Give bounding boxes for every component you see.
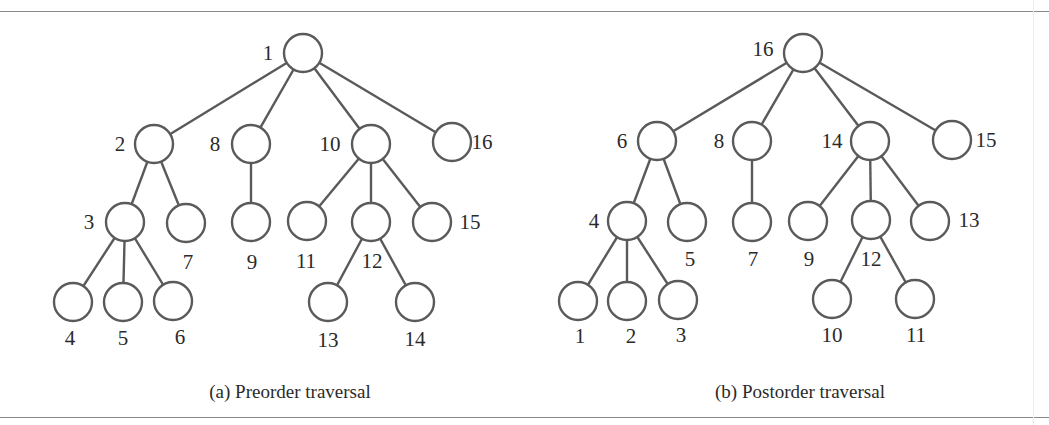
node-order-label: 10 [320,132,341,156]
node-order-label: 5 [685,247,696,271]
tree-node [911,202,949,240]
node-order-label: 5 [118,326,129,350]
node-order-label: 10 [822,323,843,347]
traversal-figure: 12810163791112154561314 (a) Preorder tra… [0,0,1049,425]
node-order-label: 16 [472,130,493,154]
node-order-label: 9 [804,247,815,271]
tree-node [352,125,390,163]
tree-node [733,203,771,241]
tree-node [284,34,322,72]
tree-node [852,201,890,239]
node-order-label: 15 [976,128,997,152]
tree-node [232,203,270,241]
tree-edge [154,53,303,144]
tree-node [106,203,144,241]
node-order-label: 7 [183,250,194,274]
tree-node [813,280,851,318]
node-order-label: 2 [115,132,126,156]
tree-node [396,283,434,321]
node-order-label: 6 [175,325,186,349]
postorder-edges [578,53,952,301]
preorder-edges [73,53,452,302]
tree-node [104,283,142,321]
postorder-caption: (b) Postorder traversal [715,381,885,403]
tree-node [784,34,822,72]
node-order-label: 11 [906,323,926,347]
tree-node [896,280,934,318]
preorder-caption: (a) Preorder traversal [209,381,370,403]
node-order-label: 8 [210,132,221,156]
node-order-label: 12 [861,247,882,271]
tree-node [733,122,771,160]
node-order-label: 3 [84,210,95,234]
tree-node [232,125,270,163]
node-order-label: 1 [263,41,274,65]
node-order-label: 15 [460,210,481,234]
node-order-label: 13 [959,208,980,232]
node-order-label: 11 [296,249,316,273]
node-order-label: 3 [676,323,687,347]
tree-node [167,204,205,242]
node-order-label: 12 [362,249,383,273]
tree-node [608,282,646,320]
tree-node [933,121,971,159]
tree-node [608,202,646,240]
tree-node [433,123,471,161]
tree-node [413,203,451,241]
node-order-label: 4 [65,326,76,350]
node-order-label: 6 [617,129,628,153]
tree-diagrams: 12810163791112154561314 (a) Preorder tra… [0,0,1049,425]
node-order-label: 7 [748,247,759,271]
tree-node [352,203,390,241]
tree-node [851,122,889,160]
node-order-label: 9 [247,250,258,274]
node-order-label: 13 [318,328,339,352]
preorder-tree-panel: 12810163791112154561314 (a) Preorder tra… [54,34,493,403]
tree-node [135,125,173,163]
tree-node [638,122,676,160]
node-order-label: 8 [714,129,725,153]
tree-node [559,282,597,320]
node-order-label: 14 [405,327,427,351]
node-order-label: 16 [753,37,774,61]
tree-node [154,282,192,320]
node-order-label: 2 [626,324,637,348]
tree-node [309,283,347,321]
node-order-label: 1 [575,324,586,348]
tree-node [54,283,92,321]
node-order-label: 4 [589,209,600,233]
node-order-label: 14 [822,129,844,153]
tree-node [789,202,827,240]
tree-edge [657,53,803,141]
tree-node [288,202,326,240]
tree-node [668,203,706,241]
postorder-tree-panel: 16681415457912131231011 (b) Postorder tr… [559,34,997,403]
tree-node [659,281,697,319]
